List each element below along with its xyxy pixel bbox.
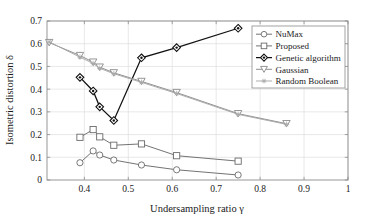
data-point-circle-marker	[77, 160, 83, 166]
data-point-square-marker	[90, 126, 96, 132]
x-tick-label: 0.5	[122, 184, 134, 194]
data-point-circle-marker	[97, 152, 103, 158]
data-point-square-marker	[174, 153, 180, 159]
legend-label: NuMax	[276, 29, 304, 39]
x-tick-label: 0.9	[298, 184, 310, 194]
data-point-circle-marker	[174, 167, 180, 173]
x-tick-label: 1	[346, 184, 351, 194]
figure-container: 0.40.50.60.70.80.9100.10.20.30.40.50.60.…	[0, 0, 370, 221]
data-point-star-marker	[97, 66, 102, 71]
data-point-circle-marker	[235, 172, 241, 178]
chart-legend: NuMaxProposedGenetic algorithmGaussianRa…	[252, 26, 345, 88]
data-point-square-marker	[97, 134, 103, 140]
x-tick-label: 0.4	[78, 184, 90, 194]
legend-label: Random Boolean	[276, 76, 339, 86]
data-point-diamond-marker	[138, 54, 146, 62]
data-point-square-marker	[138, 141, 144, 147]
legend-label: Proposed	[276, 41, 310, 51]
data-point-circle-marker	[138, 162, 144, 168]
data-point-star-marker	[139, 80, 144, 85]
y-tick-label: 0.4	[30, 85, 42, 95]
series-proposed	[77, 126, 241, 164]
y-tick-label: 0.7	[30, 16, 42, 26]
x-tick-label: 0.7	[210, 184, 222, 194]
y-tick-label: 0	[37, 175, 42, 185]
data-point-star-marker	[111, 71, 116, 76]
data-point-square-marker	[235, 158, 241, 164]
series-numax	[77, 148, 241, 178]
y-tick-label: 0.3	[30, 107, 42, 117]
data-point-square-marker	[261, 43, 267, 49]
y-tick-label: 0.5	[30, 62, 42, 72]
y-tick-label: 0.1	[30, 153, 42, 163]
x-tick-label: 0.6	[166, 184, 178, 194]
data-point-diamond-marker	[234, 24, 242, 32]
x-tick-label: 0.8	[254, 184, 266, 194]
data-point-circle-marker	[90, 148, 96, 154]
legend-item-gaussian[interactable]: Gaussian	[256, 65, 309, 75]
data-point-star-marker	[235, 112, 240, 117]
series-genetic-algorithm	[76, 24, 242, 124]
legend-label: Genetic algorithm	[276, 53, 341, 63]
y-tick-label: 0.2	[30, 130, 42, 140]
data-point-circle-marker	[261, 31, 267, 37]
x-axis-label: Undersampling ratio γ	[150, 203, 244, 214]
data-point-star-marker	[262, 79, 267, 84]
legend-label: Gaussian	[276, 65, 309, 75]
data-point-star-marker	[46, 39, 51, 44]
data-point-square-marker	[77, 134, 83, 140]
chart-svg: 0.40.50.60.70.80.9100.10.20.30.40.50.60.…	[0, 0, 370, 221]
data-point-circle-marker	[111, 157, 117, 163]
data-point-square-marker	[111, 142, 117, 148]
y-tick-label: 0.6	[30, 39, 42, 49]
data-point-diamond-marker	[173, 44, 181, 52]
y-axis-label: Isometric distortion δ	[4, 55, 15, 145]
